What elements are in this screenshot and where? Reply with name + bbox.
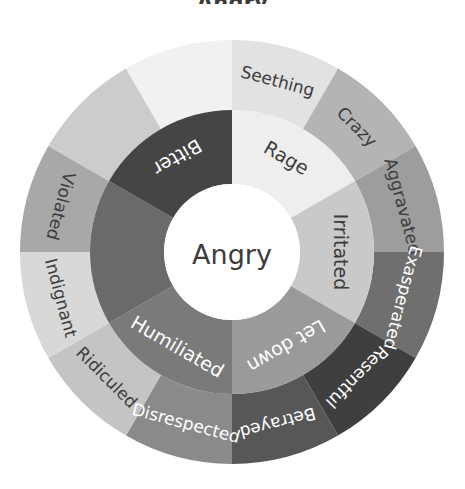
emotion-wheel-svg: SeethingCrazyAggravatedExasperatedResent… xyxy=(0,0,465,489)
emotion-wheel-diagram: Angry SeethingCrazyAggravatedExasperated… xyxy=(0,0,465,489)
inner-segment-label: Irritated xyxy=(330,214,352,290)
center-label: Angry xyxy=(192,239,272,270)
center-emotion-label: Angry xyxy=(192,239,272,270)
